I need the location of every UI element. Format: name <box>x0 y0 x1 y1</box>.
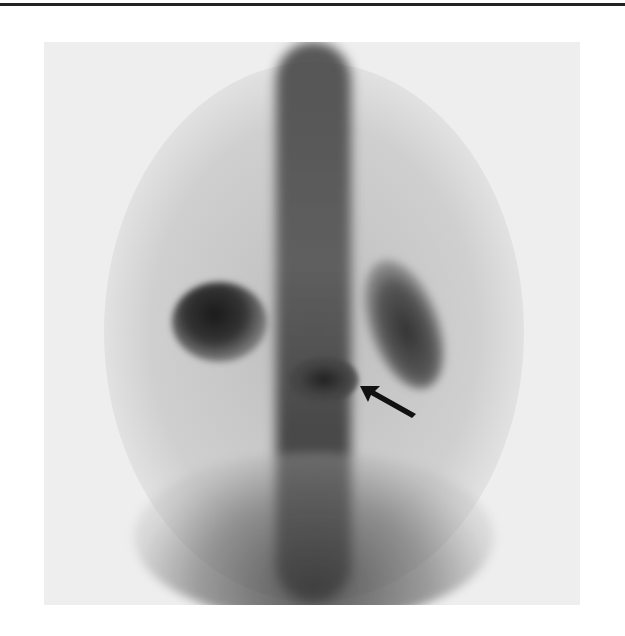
right-kidney-uptake <box>172 282 267 362</box>
top-rule <box>0 3 625 6</box>
scan-image <box>44 42 580 605</box>
focal-lesion <box>289 357 359 402</box>
arrow-icon <box>358 380 418 420</box>
